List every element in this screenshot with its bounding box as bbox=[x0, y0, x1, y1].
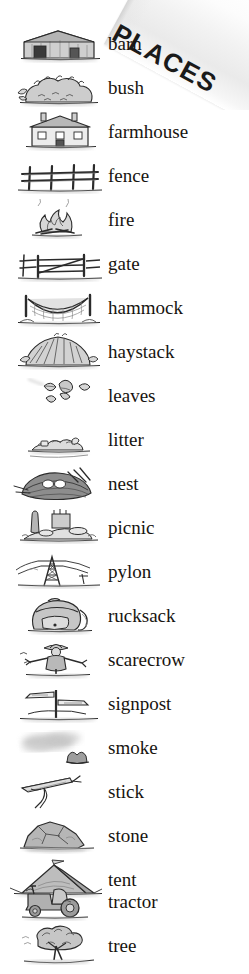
barn-illustration bbox=[8, 22, 108, 66]
fence-illustration bbox=[8, 154, 108, 198]
word-label-pylon: pylon bbox=[108, 550, 151, 594]
word-label-nest: nest bbox=[108, 462, 139, 506]
word-row-farmhouse[interactable]: farmhouse bbox=[0, 110, 249, 154]
tree-illustration bbox=[8, 924, 108, 968]
word-label-hammock: hammock bbox=[108, 286, 183, 330]
word-label-barn: barn bbox=[108, 22, 142, 66]
word-label-litter: litter bbox=[108, 418, 144, 462]
word-label-smoke: smoke bbox=[108, 726, 158, 770]
word-row-leaves[interactable]: leaves bbox=[0, 374, 249, 418]
gate-illustration bbox=[8, 242, 108, 286]
word-label-tractor: tractor bbox=[108, 880, 158, 924]
stick-illustration bbox=[8, 770, 108, 814]
word-label-stick: stick bbox=[108, 770, 144, 814]
hammock-illustration bbox=[8, 286, 108, 330]
word-row-pylon[interactable]: pylon bbox=[0, 550, 249, 594]
tractor-illustration bbox=[8, 880, 108, 924]
word-row-tree[interactable]: tree bbox=[0, 924, 249, 968]
leaves-illustration bbox=[8, 374, 108, 418]
word-label-leaves: leaves bbox=[108, 374, 155, 418]
word-label-haystack: haystack bbox=[108, 330, 174, 374]
word-row-fire[interactable]: fire bbox=[0, 198, 249, 242]
word-row-tractor[interactable]: tractor bbox=[0, 880, 249, 924]
word-row-haystack[interactable]: haystack bbox=[0, 330, 249, 374]
scarecrow-illustration bbox=[8, 638, 108, 682]
word-label-tree: tree bbox=[108, 924, 136, 968]
word-row-bush[interactable]: bush bbox=[0, 66, 249, 110]
signpost-illustration bbox=[8, 682, 108, 726]
fire-illustration bbox=[8, 198, 108, 242]
word-row-signpost[interactable]: signpost bbox=[0, 682, 249, 726]
word-row-stone[interactable]: stone bbox=[0, 814, 249, 858]
rucksack-illustration bbox=[8, 594, 108, 638]
litter-illustration bbox=[8, 418, 108, 462]
word-label-picnic: picnic bbox=[108, 506, 154, 550]
smoke-illustration bbox=[8, 726, 108, 770]
bush-illustration bbox=[8, 66, 108, 110]
farmhouse-illustration bbox=[8, 110, 108, 154]
word-label-bush: bush bbox=[108, 66, 144, 110]
pylon-illustration bbox=[8, 550, 108, 594]
word-label-rucksack: rucksack bbox=[108, 594, 176, 638]
stone-illustration bbox=[8, 814, 108, 858]
word-row-stick[interactable]: stick bbox=[0, 770, 249, 814]
word-label-scarecrow: scarecrow bbox=[108, 638, 185, 682]
word-label-farmhouse: farmhouse bbox=[108, 110, 188, 154]
word-label-gate: gate bbox=[108, 242, 140, 286]
word-row-smoke[interactable]: smoke bbox=[0, 726, 249, 770]
word-row-picnic[interactable]: picnic bbox=[0, 506, 249, 550]
word-row-gate[interactable]: gate bbox=[0, 242, 249, 286]
word-label-fire: fire bbox=[108, 198, 134, 242]
word-row-litter[interactable]: litter bbox=[0, 418, 249, 462]
word-row-fence[interactable]: fence bbox=[0, 154, 249, 198]
word-label-stone: stone bbox=[108, 814, 148, 858]
nest-illustration bbox=[8, 462, 108, 506]
word-row-barn[interactable]: barn bbox=[0, 22, 249, 66]
word-row-nest[interactable]: nest bbox=[0, 462, 249, 506]
word-label-fence: fence bbox=[108, 154, 149, 198]
word-row-scarecrow[interactable]: scarecrow bbox=[0, 638, 249, 682]
word-label-signpost: signpost bbox=[108, 682, 171, 726]
word-row-rucksack[interactable]: rucksack bbox=[0, 594, 249, 638]
haystack-illustration bbox=[8, 330, 108, 374]
picnic-illustration bbox=[8, 506, 108, 550]
word-row-hammock[interactable]: hammock bbox=[0, 286, 249, 330]
